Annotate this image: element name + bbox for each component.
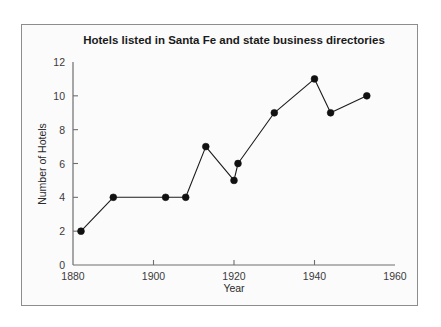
x-tick-label: 1880	[61, 270, 85, 282]
y-tick-label: 10	[53, 90, 65, 102]
data-point	[363, 92, 370, 99]
y-axis-title: Number of Hotels	[36, 123, 48, 205]
data-point	[327, 109, 334, 116]
data-point	[202, 143, 209, 150]
y-tick-label: 6	[59, 158, 65, 170]
series-line-hotels	[81, 79, 367, 231]
y-tick-label: 8	[59, 124, 65, 136]
x-tick-label: 1940	[303, 270, 327, 282]
data-point	[271, 109, 278, 116]
y-tick-label: 4	[59, 191, 65, 203]
data-point	[311, 76, 318, 83]
data-point	[182, 194, 189, 201]
y-tick-label: 2	[59, 225, 65, 237]
axis-tick-marks	[73, 96, 315, 265]
y-tick-label: 12	[53, 56, 65, 68]
series-markers-hotels	[78, 76, 371, 235]
chart-title: Hotels listed in Santa Fe and state busi…	[83, 34, 385, 46]
line-chart: Hotels listed in Santa Fe and state busi…	[0, 0, 441, 327]
data-point	[231, 177, 238, 184]
x-axis-tick-labels: 18801900192019401960	[61, 270, 407, 282]
data-point	[162, 194, 169, 201]
data-point	[110, 194, 117, 201]
data-point	[78, 228, 85, 235]
x-axis-title: Year	[223, 282, 245, 294]
figure-canvas: Hotels listed in Santa Fe and state busi…	[0, 0, 441, 327]
x-tick-label: 1920	[222, 270, 246, 282]
x-tick-label: 1960	[383, 270, 407, 282]
data-point	[235, 160, 242, 167]
x-tick-label: 1900	[142, 270, 166, 282]
y-axis-tick-labels: 024681012	[53, 56, 65, 271]
